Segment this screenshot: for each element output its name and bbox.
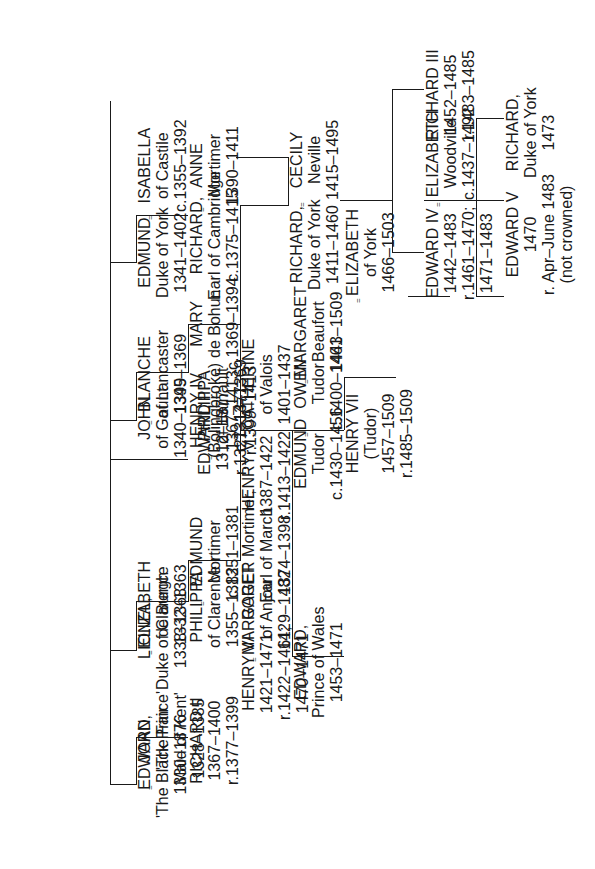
person-henry-vii: HENRY VII (Tudor) 1457–1509 r.1485–1509 — [344, 389, 416, 478]
marriage-symbol-richard-york: = — [298, 202, 307, 207]
person-name: HENRY V — [240, 440, 258, 511]
person-detail: Tudor — [310, 433, 328, 474]
person-detail: of Lancaster — [154, 330, 172, 418]
connector-edward3-spine — [110, 101, 111, 785]
person-life: 1470 — [522, 217, 540, 253]
person-name: MARGARET — [292, 286, 310, 377]
marriage-symbol-cambridge: = — [198, 207, 207, 212]
connector-anne-in — [240, 205, 288, 206]
person-edward-v: EDWARD V 1470 r. Apr–June 1483 (not crow… — [504, 174, 576, 295]
person-richard-ii: RICHARD II 1367–1400 r.1377–1399 — [188, 696, 242, 785]
person-richard-duke-of-york-1473: RICHARD, Duke of York 1473 — [504, 87, 558, 178]
person-name: ELIZABETH — [136, 561, 154, 648]
person-name: EDWARD V — [504, 192, 522, 278]
person-life: 1453–1471 — [328, 622, 346, 702]
connector-to-lionel — [110, 650, 136, 651]
person-detail: of Castile — [154, 132, 172, 199]
person-margaret-beaufort: MARGARET Beaufort 1443–1509 — [292, 286, 346, 377]
person-edward-prince-of-wales: EDWARD, Prince of Wales 1453–1471 — [292, 607, 346, 718]
person-margaret-anjou: MARGARET of Anjou 1429–1482 — [240, 564, 294, 655]
person-detail: Neville — [306, 136, 324, 184]
marriage-symbol-edward4: = — [434, 202, 443, 207]
marriage-symbol-edmund-york: = — [146, 215, 155, 220]
connector-to-john-gaunt — [110, 420, 136, 421]
person-life: 1387–1422 — [258, 435, 276, 515]
marriage-symbol-gaunt: = — [146, 420, 155, 425]
person-edmund-mortimer: EDMUND Mortimer c.1351–1381 — [188, 505, 242, 598]
marriage-symbol-blackprince: = — [146, 785, 155, 790]
person-life: 1443–1509 — [328, 292, 346, 372]
marriage-symbol-lionel: = — [146, 650, 155, 655]
connector-edward4-marriage — [424, 200, 476, 201]
person-blanche-lancaster: BLANCHE of Lancaster 1345–1369 — [136, 330, 190, 418]
connector-to-richard3 — [392, 89, 424, 90]
person-reign: r.1483–1485 — [460, 50, 478, 139]
person-detail: Mortimer — [206, 134, 224, 197]
person-life: 1415–1495 — [324, 120, 342, 200]
person-life: 1411–1460 — [324, 205, 342, 284]
person-name: RICHARD, — [288, 206, 306, 283]
person-edmund-duke-of-york: EDMUND Duke of York 1341–1402 — [136, 207, 190, 298]
person-reign2: 1471–1483 — [478, 213, 496, 293]
person-elizabeth-of-york: ELIZABETH of York 1466–1503 — [344, 209, 398, 296]
person-name: MARGARET — [240, 564, 258, 655]
person-name: MARY — [188, 301, 206, 347]
person-detail: Duke of York — [154, 207, 172, 298]
person-catherine-valois: CATHERINE of Valois 1401–1437 — [240, 339, 294, 430]
person-elizabeth-de-burgh: ELIZABETH de Burgh 1332–1363 — [136, 561, 190, 648]
person-name: ANNE — [188, 143, 206, 187]
person-name: RICHARD III — [424, 49, 442, 140]
person-detail: Duke of York — [522, 87, 540, 178]
person-name: BLANCHE — [136, 336, 154, 412]
person-name: HENRY VII — [344, 394, 362, 473]
person-richard-iii: RICHARD III 1452–1485 r.1483–1485 — [424, 49, 478, 140]
person-detail: Duke of York — [306, 199, 324, 290]
person-name: CECILY — [288, 132, 306, 189]
connector-to-black-prince — [110, 784, 136, 785]
person-detail: 'The Fair — [154, 707, 172, 770]
person-reign: r.1461–1470; — [460, 207, 478, 300]
person-edward-iv: EDWARD IV 1442–1483 r.1461–1470; 1471–14… — [424, 207, 496, 300]
connector-to-edward5 — [476, 200, 504, 201]
person-detail: Beaufort — [310, 301, 328, 361]
person-reign: r.1485–1509 — [398, 389, 416, 478]
person-anne-mortimer: ANNE Mortimer 1390–1411 — [188, 126, 242, 205]
connector-to-richard-york-1473 — [476, 118, 504, 119]
person-life: 1457–1509 — [380, 393, 398, 473]
person-life: 1452–1485 — [442, 55, 460, 135]
connector-to-henry7 — [344, 377, 396, 378]
person-note: (not crowned) — [558, 186, 576, 284]
person-life: 1367–1400 — [206, 700, 224, 780]
person-detail: (Tudor) — [362, 408, 380, 460]
connector-cambridge-h — [236, 157, 288, 158]
person-name: RICHARD II — [188, 697, 206, 783]
person-name: EDWARD IV — [424, 208, 442, 298]
marriage-symbol-henry5: = — [250, 432, 259, 437]
person-reign: r. Apr–June 1483 — [540, 174, 558, 295]
person-name: RICHARD, — [504, 94, 522, 171]
person-detail: of York — [362, 228, 380, 277]
person-name: CATHERINE — [240, 339, 258, 430]
connector-to-edmund-york — [110, 262, 136, 263]
family-tree-canvas: EDWARD III 1312–1377 r.1327–1377 = PHILI… — [0, 0, 595, 869]
person-name: ELIZABETH — [344, 209, 362, 296]
person-detail: of Anjou — [258, 581, 276, 639]
person-name: HENRY IV — [188, 373, 206, 448]
person-cecily-neville: CECILY Neville 1415–1495 — [288, 120, 342, 200]
marriage-symbol-henry6: = — [250, 657, 259, 662]
connector-edward3-stem — [110, 459, 188, 460]
person-detail: (Bolingbroke) — [206, 363, 224, 458]
person-detail: Mortimer — [206, 520, 224, 583]
person-name: JOAN, — [136, 715, 154, 762]
person-life: 1473 — [540, 115, 558, 151]
marriage-symbol-philippa-clarence: = — [198, 601, 207, 606]
person-life: 1466–1503 — [380, 212, 398, 292]
person-richard-duke-of-york: RICHARD, Duke of York 1411–1460 — [288, 199, 342, 290]
person-name: EDMUND — [188, 517, 206, 587]
marriage-symbol-henry4: = — [198, 373, 207, 378]
person-edmund-tudor: EDMUND Tudor c.1430–1456 — [292, 407, 346, 500]
person-henry-v: HENRY V 1387–1422 r.1413–1422 — [240, 431, 294, 520]
person-detail: Prince of Wales — [310, 607, 328, 718]
person-life: 1442–1483 — [442, 213, 460, 293]
person-detail: de Burgh — [154, 572, 172, 637]
